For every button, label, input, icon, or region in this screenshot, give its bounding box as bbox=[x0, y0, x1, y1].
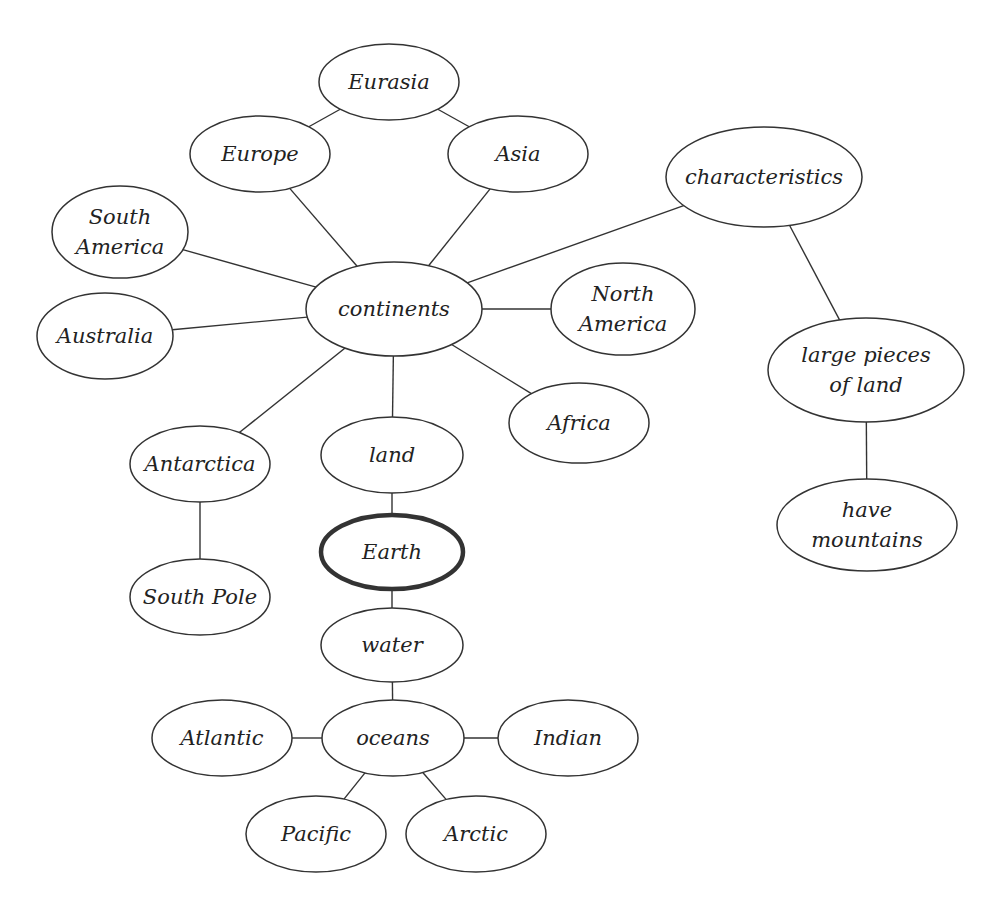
node-characteristics: characteristics bbox=[666, 127, 862, 227]
node-label: North bbox=[590, 282, 654, 306]
edge-oceans-arctic bbox=[423, 772, 446, 799]
node-atlantic: Atlantic bbox=[152, 700, 292, 776]
node-arctic: Arctic bbox=[406, 796, 546, 872]
node-label: mountains bbox=[811, 528, 923, 552]
node-label: of land bbox=[829, 373, 902, 397]
node-ellipse bbox=[768, 318, 964, 422]
concept-map: EurasiaEuropeAsiacharacteristicsSouthAme… bbox=[0, 0, 994, 898]
nodes: EurasiaEuropeAsiacharacteristicsSouthAme… bbox=[37, 44, 964, 872]
node-north-america: NorthAmerica bbox=[551, 263, 695, 355]
node-label: America bbox=[74, 235, 165, 259]
concept-map-svg: EurasiaEuropeAsiacharacteristicsSouthAme… bbox=[0, 0, 994, 898]
edge-antarctica-continents bbox=[239, 348, 345, 432]
node-have-mountains: havemountains bbox=[777, 479, 957, 571]
node-label: large pieces bbox=[801, 343, 931, 367]
node-label: Africa bbox=[545, 411, 611, 435]
edge-oceans-pacific bbox=[344, 773, 365, 799]
edge-characteristics-large-pieces bbox=[790, 225, 840, 320]
node-label: Arctic bbox=[442, 822, 508, 846]
node-label: continents bbox=[338, 297, 450, 321]
node-label: land bbox=[369, 443, 415, 467]
node-label: Indian bbox=[533, 726, 602, 750]
node-label: Atlantic bbox=[179, 726, 264, 750]
edge-asia-continents bbox=[429, 189, 491, 266]
node-label: Europe bbox=[220, 142, 298, 166]
node-indian: Indian bbox=[498, 700, 638, 776]
edge-eurasia-europe bbox=[309, 109, 340, 127]
node-label: oceans bbox=[356, 726, 430, 750]
node-pacific: Pacific bbox=[246, 796, 386, 872]
node-antarctica: Antarctica bbox=[130, 426, 270, 502]
node-south-pole: South Pole bbox=[130, 559, 270, 635]
node-oceans: oceans bbox=[322, 700, 464, 776]
node-ellipse bbox=[777, 479, 957, 571]
node-ellipse bbox=[551, 263, 695, 355]
node-label: water bbox=[361, 633, 424, 657]
node-label: have bbox=[842, 498, 892, 522]
edge-europe-continents bbox=[290, 188, 357, 266]
node-ellipse bbox=[52, 186, 188, 278]
node-continents: continents bbox=[306, 262, 482, 356]
node-label: Earth bbox=[361, 540, 422, 564]
node-land: land bbox=[321, 417, 463, 493]
node-water: water bbox=[321, 608, 463, 682]
node-large-pieces: large piecesof land bbox=[768, 318, 964, 422]
edge-africa-continents bbox=[452, 345, 532, 394]
node-europe: Europe bbox=[190, 116, 330, 192]
node-label: Eurasia bbox=[347, 70, 429, 94]
node-label: characteristics bbox=[685, 165, 843, 189]
edge-land-continents bbox=[393, 356, 394, 417]
node-label: Asia bbox=[493, 142, 540, 166]
node-label: Australia bbox=[55, 324, 153, 348]
node-eurasia: Eurasia bbox=[319, 44, 459, 120]
node-earth: Earth bbox=[321, 515, 463, 589]
edge-eurasia-asia bbox=[438, 109, 469, 127]
node-label: South Pole bbox=[143, 585, 257, 609]
node-label: Antarctica bbox=[143, 452, 256, 476]
node-label: Pacific bbox=[280, 822, 351, 846]
node-australia: Australia bbox=[37, 293, 173, 379]
node-south-america: SouthAmerica bbox=[52, 186, 188, 278]
node-label: South bbox=[89, 205, 152, 229]
node-africa: Africa bbox=[509, 383, 649, 463]
node-label: America bbox=[577, 312, 668, 336]
node-asia: Asia bbox=[448, 116, 588, 192]
edge-south-america-continents bbox=[183, 250, 316, 287]
edge-australia-continents bbox=[172, 317, 307, 330]
